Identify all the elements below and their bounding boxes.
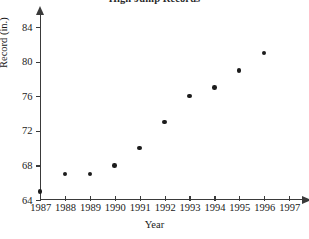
data-point	[137, 146, 142, 151]
x-tick-label-1991: 1991	[130, 203, 151, 214]
x-tick-1996: 1996	[264, 196, 265, 201]
y-axis-label: Record (in.)	[0, 17, 9, 68]
y-tick-label-68: 68	[22, 161, 33, 172]
y-tick-label-76: 76	[22, 92, 33, 103]
chart-title: High Jump Records	[0, 0, 309, 4]
x-tick-1990: 1990	[115, 196, 116, 201]
x-tick-1993: 1993	[189, 196, 190, 201]
y-axis-line	[40, 14, 41, 200]
y-tick-80: 80	[36, 62, 41, 63]
x-tick-1987: 1987	[40, 196, 41, 201]
x-tick-1994: 1994	[214, 196, 215, 201]
data-point	[38, 189, 43, 194]
y-tick-label-84: 84	[22, 22, 33, 33]
x-tick-label-1989: 1989	[80, 203, 101, 214]
x-tick-label-1993: 1993	[180, 203, 201, 214]
x-tick-label-1988: 1988	[55, 203, 76, 214]
y-tick-label-72: 72	[22, 126, 33, 137]
x-tick-1995: 1995	[239, 196, 240, 201]
data-point	[162, 120, 167, 125]
x-tick-1989: 1989	[90, 196, 91, 201]
data-point	[262, 51, 267, 56]
y-axis-arrow-icon	[36, 6, 44, 15]
data-point	[237, 68, 242, 73]
x-tick-label-1994: 1994	[204, 203, 225, 214]
x-tick-1992: 1992	[165, 196, 166, 201]
y-tick-68: 68	[36, 165, 41, 166]
x-tick-1988: 1988	[65, 196, 66, 201]
x-tick-label-1997: 1997	[279, 203, 300, 214]
high-jump-records-chart: High Jump Records 646872768084 198719881…	[0, 0, 309, 239]
x-tick-1997: 1997	[289, 196, 290, 201]
data-point	[88, 172, 93, 177]
x-axis-arrow-icon	[302, 196, 309, 204]
y-tick-label-80: 80	[22, 57, 33, 68]
y-tick-84: 84	[36, 27, 41, 28]
data-point	[212, 85, 217, 90]
x-tick-label-1996: 1996	[254, 203, 275, 214]
x-axis-label: Year	[0, 219, 309, 230]
y-tick-76: 76	[36, 96, 41, 97]
plot-area: 646872768084 198719881989199019911992199…	[40, 14, 303, 200]
data-point	[187, 94, 192, 99]
data-point	[63, 172, 68, 177]
x-tick-1991: 1991	[140, 196, 141, 201]
x-tick-label-1992: 1992	[155, 203, 176, 214]
y-tick-72: 72	[36, 131, 41, 132]
x-tick-label-1987: 1987	[30, 203, 51, 214]
data-point	[112, 163, 117, 168]
x-tick-label-1990: 1990	[105, 203, 126, 214]
x-tick-label-1995: 1995	[229, 203, 250, 214]
